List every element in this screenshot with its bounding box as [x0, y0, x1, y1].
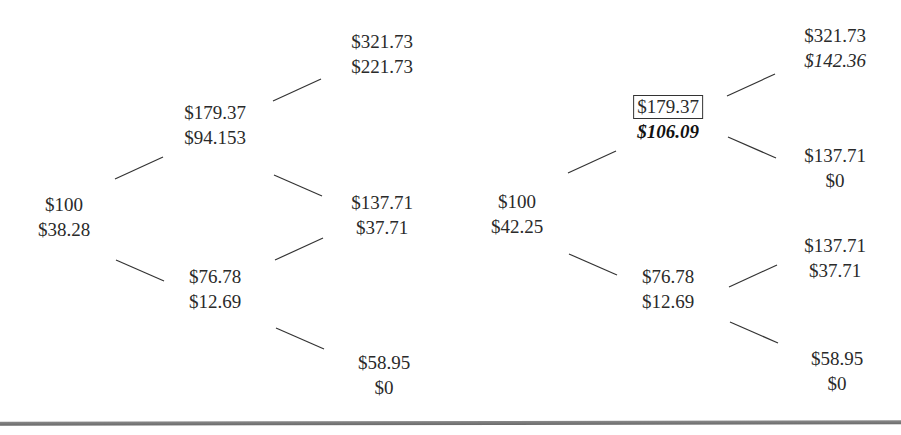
edge-left-down-ud	[275, 238, 323, 260]
node-value-italic: $142.36	[804, 48, 866, 73]
node-value: $37.71	[804, 258, 866, 283]
right-ud-from-up-node: $137.71 $0	[804, 143, 866, 193]
left-ud-node: $137.71 $37.71	[351, 190, 413, 240]
node-price: $137.71	[804, 233, 866, 258]
node-price: $179.37	[184, 100, 246, 125]
node-value: $12.69	[642, 289, 694, 314]
node-price: $321.73	[804, 23, 866, 48]
left-dd-node: $58.95 $0	[358, 350, 410, 400]
edge-right-up-uu	[727, 74, 775, 96]
node-price: $76.78	[189, 264, 241, 289]
node-value: $38.28	[38, 217, 90, 242]
node-value: $42.25	[491, 214, 543, 239]
node-price: $100	[491, 189, 543, 214]
edge-right-down-ud	[729, 265, 777, 287]
node-value: $0	[358, 375, 410, 400]
node-price: $321.73	[351, 29, 413, 54]
left-down-node: $76.78 $12.69	[189, 264, 241, 314]
edge-right-root-down	[569, 254, 617, 275]
node-value: $37.71	[351, 215, 413, 240]
node-value: $0	[804, 168, 866, 193]
right-root-node: $100 $42.25	[491, 189, 543, 239]
node-price: $137.71	[804, 143, 866, 168]
left-uu-node: $321.73 $221.73	[351, 29, 413, 79]
right-up-node: $179.37 $106.09	[633, 94, 703, 144]
tree-edges	[0, 0, 901, 435]
node-price: $58.95	[811, 346, 863, 371]
edge-left-up-uu	[273, 79, 321, 101]
left-root-node: $100 $38.28	[38, 192, 90, 242]
node-price: $137.71	[351, 190, 413, 215]
node-value: $0	[811, 371, 863, 396]
node-value-emphasized: $106.09	[633, 119, 703, 144]
edge-right-root-up	[568, 151, 616, 173]
edge-left-root-down	[116, 260, 164, 281]
edge-left-root-up	[115, 157, 163, 179]
node-price: $58.95	[358, 350, 410, 375]
edge-right-up-ud	[728, 137, 776, 158]
right-dd-node: $58.95 $0	[811, 346, 863, 396]
node-price: $76.78	[642, 264, 694, 289]
edge-right-down-dd	[730, 322, 778, 343]
edge-left-down-dd	[276, 328, 324, 349]
edge-left-up-ud	[274, 175, 322, 196]
right-down-node: $76.78 $12.69	[642, 264, 694, 314]
node-value: $221.73	[351, 54, 413, 79]
node-price-boxed: $179.37	[633, 95, 703, 119]
node-price: $100	[38, 192, 90, 217]
right-uu-node: $321.73 $142.36	[804, 23, 866, 73]
right-ud-from-down-node: $137.71 $37.71	[804, 233, 866, 283]
node-value: $12.69	[189, 289, 241, 314]
node-value: $94.153	[184, 125, 246, 150]
left-up-node: $179.37 $94.153	[184, 100, 246, 150]
